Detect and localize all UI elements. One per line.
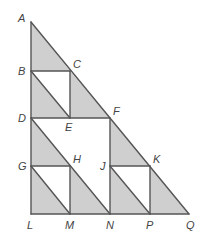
vertex-label-n: N	[106, 219, 114, 231]
vertex-label-k: K	[153, 153, 161, 165]
vertex-label-q: Q	[186, 219, 195, 231]
vertex-label-j: J	[99, 160, 106, 172]
vertex-label-l: L	[27, 219, 33, 231]
vertex-label-f: F	[113, 105, 121, 117]
geometry-diagram: ABCDEFGHJKLMNPQ	[0, 0, 207, 239]
vertex-label-p: P	[146, 219, 154, 231]
vertex-label-e: E	[65, 121, 73, 133]
segments	[31, 22, 189, 214]
vertex-label-a: A	[17, 12, 25, 24]
vertex-label-m: M	[65, 219, 75, 231]
vertex-label-b: B	[18, 65, 25, 77]
vertex-label-g: G	[18, 160, 27, 172]
vertex-label-c: C	[73, 58, 81, 70]
vertex-label-h: H	[73, 153, 81, 165]
vertex-label-d: D	[18, 112, 26, 124]
